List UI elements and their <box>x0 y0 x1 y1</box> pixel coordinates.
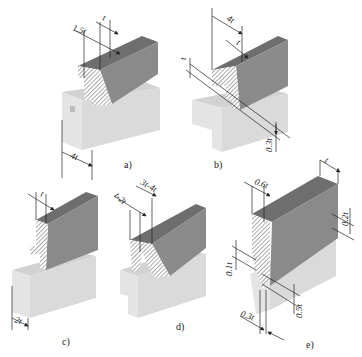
dim-c-2: 2t <box>13 314 23 326</box>
dim-b-1: 4t <box>225 13 236 25</box>
caption-d: d) <box>176 321 184 333</box>
dim-b-3: t <box>178 57 188 60</box>
caption-a: a) <box>124 159 132 171</box>
dim-d-2: 3t-4t <box>138 177 159 195</box>
dim-e-3: 0.2t <box>340 212 350 226</box>
dim-e-5: 0.5t <box>294 304 304 318</box>
figure-b: 4t t t 0.3t b) <box>178 8 290 171</box>
dim-e-4: 0.1t <box>224 262 234 276</box>
dim-a-1: 1.5t <box>71 22 88 36</box>
figure-a: 1.5t t 4t a) <box>62 12 160 180</box>
dim-b-2: t <box>235 37 243 47</box>
caption-c: c) <box>62 336 70 348</box>
caption-b: b) <box>214 159 222 171</box>
dim-b-4: 0.3t <box>264 138 274 152</box>
dim-c-1: t <box>39 188 45 198</box>
caption-e: e) <box>306 339 314 351</box>
dim-e-6: 0.3t <box>239 308 256 322</box>
weld-joint-diagram: 1.5t t 4t a) 4t t t 0.3t <box>0 0 362 357</box>
dim-a-3: 4t <box>69 150 79 162</box>
figure-e: 0.6t t 0.2t 0.1t 0.5t 0.3t e) <box>224 155 354 351</box>
figure-c: t 2t c) <box>12 188 98 348</box>
dim-a-2: t <box>101 12 107 22</box>
figure-d: t-2t 3t-4t d) <box>113 177 206 333</box>
